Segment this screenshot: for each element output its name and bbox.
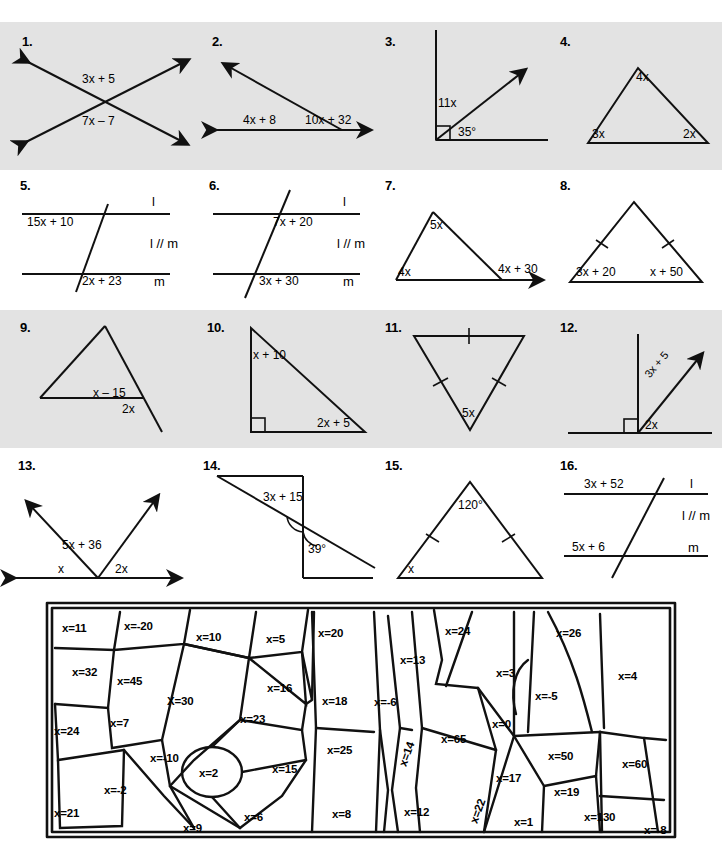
answer-bank-cell[interactable]: x=-20	[124, 620, 153, 632]
problem-3-label-a: 11x	[438, 96, 456, 110]
problem-5: 5. 15x + 10 2x + 23 l m l // m	[0, 170, 195, 310]
problem-13-label-a: 5x + 36	[62, 538, 102, 552]
problem-15-label-a: 120°	[458, 498, 483, 512]
problem-2-label-a: 4x + 8	[243, 113, 276, 127]
answer-bank-cell[interactable]: x=130	[584, 811, 615, 823]
problem-4-label-a: 4x	[636, 70, 649, 84]
problem-4-figure	[550, 22, 722, 170]
problem-10-label-b: 2x + 5	[317, 416, 350, 430]
answer-bank-cell[interactable]: x=5	[266, 633, 285, 645]
problem-15: 15. 120° x	[380, 450, 550, 600]
problem-9-label-b: 2x	[122, 402, 135, 416]
problem-11-figure	[380, 310, 550, 450]
answer-bank-cell[interactable]: x=-2	[104, 784, 127, 796]
problem-16-label-b: 5x + 6	[572, 540, 605, 554]
problem-14: 14. 3x + 15 39°	[195, 450, 380, 600]
answer-bank-cell[interactable]: x=50	[548, 750, 573, 762]
problem-9-figure	[0, 310, 195, 450]
answer-bank-cell[interactable]: x=25	[327, 744, 352, 756]
problem-6-line-m: m	[343, 274, 354, 289]
problem-5-label-b: 2x + 23	[82, 274, 122, 288]
answer-bank-cell[interactable]: x=12	[404, 806, 429, 818]
problem-5-parallel-note: l // m	[150, 236, 178, 251]
answer-bank-puzzle: x=11x=-20x=10x=5x=20x=24x=26x=32x=45x=13…	[44, 600, 678, 840]
answer-bank-cell[interactable]: x=11	[62, 622, 86, 634]
answer-bank-cell[interactable]: x=4	[618, 670, 637, 682]
problem-12-figure	[550, 310, 722, 450]
problem-16-label-a: 3x + 52	[584, 477, 624, 491]
problem-5-line-l: l	[152, 194, 155, 209]
answer-bank-cell[interactable]: x=0	[492, 718, 511, 730]
answer-bank-cell[interactable]: x=17	[496, 772, 521, 784]
problem-7-label-c: 4x + 30	[498, 262, 538, 276]
answer-bank-cell[interactable]: x=65	[441, 733, 466, 745]
answer-bank-cell[interactable]: x=26	[556, 627, 581, 639]
problem-8-label-b: x + 50	[650, 265, 683, 279]
problem-7-figure	[380, 170, 550, 310]
answer-bank-cell[interactable]: x=32	[72, 666, 97, 678]
answer-bank-cell[interactable]: x=19	[554, 786, 579, 798]
problem-3: 3. 11x 35°	[380, 22, 550, 170]
problem-8: 8. 3x + 20 x + 50	[550, 170, 722, 310]
problem-1-figure	[0, 22, 195, 170]
problem-13-figure	[0, 450, 195, 600]
answer-bank-cell[interactable]: x=8	[332, 808, 351, 820]
problem-14-label-a: 3x + 15	[263, 490, 303, 504]
problem-6-label-a: 7x + 20	[273, 215, 313, 229]
problem-16-figure	[550, 450, 722, 600]
problem-4-label-b: 3x	[592, 127, 605, 141]
answer-bank-cell[interactable]: x=16	[267, 682, 292, 694]
problem-11: 11. 5x	[380, 310, 550, 450]
answer-bank-cell[interactable]: x=9	[183, 822, 202, 834]
answer-bank-cell[interactable]: x=3	[496, 667, 515, 679]
problem-9: 9. x – 15 2x	[0, 310, 195, 450]
answer-bank-cell[interactable]: x=1	[514, 816, 533, 828]
answer-bank-cell[interactable]: x=21	[54, 807, 79, 819]
problem-8-label-a: 3x + 20	[576, 265, 616, 279]
problem-1-label-b: 7x – 7	[82, 114, 115, 128]
answer-bank-cell[interactable]: x=20	[318, 627, 343, 639]
problem-4-label-c: 2x	[683, 127, 696, 141]
problem-14-label-b: 39°	[308, 542, 326, 556]
answer-bank-cell[interactable]: x=18	[322, 695, 347, 707]
problem-2-label-b: 10x + 32	[305, 113, 351, 127]
problem-10-label-a: x + 10	[253, 348, 286, 362]
answer-bank-cell[interactable]: x=-8	[644, 824, 667, 836]
problem-13: 13. 5x + 36 x 2x	[0, 450, 195, 600]
answer-bank-cell-outlines	[44, 600, 678, 840]
problem-6-line-l: l	[343, 194, 346, 209]
problem-10: 10. x + 10 2x + 5	[195, 310, 380, 450]
problem-13-label-c: 2x	[115, 562, 128, 576]
answer-bank-cell[interactable]: x=2	[199, 767, 218, 779]
problem-1-label-a: 3x + 5	[82, 72, 115, 86]
answer-bank-cell[interactable]: x=60	[622, 758, 647, 770]
problem-16: 16. 3x + 52 5x + 6 l m l // m	[550, 450, 722, 600]
problem-6-parallel-note: l // m	[337, 236, 365, 251]
problem-8-figure	[550, 170, 722, 310]
problem-7-label-a: 5x	[430, 218, 443, 232]
answer-bank-cell[interactable]: X=30	[167, 695, 193, 707]
answer-bank-cell[interactable]: x=13	[400, 654, 425, 666]
problem-2-figure	[195, 22, 380, 170]
problem-5-line-m: m	[154, 274, 165, 289]
problem-9-label-a: x – 15	[93, 386, 126, 400]
answer-bank-cell[interactable]: x=-10	[150, 752, 179, 764]
answer-bank-cell[interactable]: x=45	[117, 675, 142, 687]
answer-bank-cell[interactable]: x=-5	[535, 690, 558, 702]
answer-bank-cell[interactable]: x=-6	[374, 696, 397, 708]
answer-bank-cell[interactable]: x=7	[110, 717, 129, 729]
problem-11-label-a: 5x	[462, 406, 475, 420]
problem-1: 1. 3x + 5 7x – 7	[0, 22, 195, 170]
answer-bank-cell[interactable]: x=10	[196, 631, 221, 643]
problem-12-label-b: 2x	[645, 418, 658, 432]
problem-15-label-b: x	[408, 562, 414, 576]
answer-bank-cell[interactable]: x=6	[244, 811, 263, 823]
problem-14-figure	[195, 450, 380, 600]
answer-bank-cell[interactable]: x=15	[272, 763, 297, 775]
answer-bank-cell[interactable]: x=23	[240, 713, 265, 725]
problem-4: 4. 4x 3x 2x	[550, 22, 722, 170]
problem-3-figure	[380, 22, 550, 170]
answer-bank-cell[interactable]: x=24	[54, 725, 79, 737]
problem-6: 6. 7x + 20 3x + 30 l m l // m	[195, 170, 380, 310]
answer-bank-cell[interactable]: x=24	[445, 625, 470, 637]
